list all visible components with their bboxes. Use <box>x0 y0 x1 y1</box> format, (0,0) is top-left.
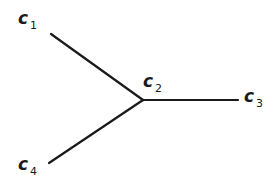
node-subscript: 3 <box>256 97 263 110</box>
node-label-c2: c2 <box>143 73 162 90</box>
edge-c4-c2 <box>49 100 143 163</box>
node-letter: c <box>143 71 153 91</box>
edge-c1-c2 <box>51 34 143 100</box>
node-letter: c <box>244 86 254 106</box>
node-subscript: 1 <box>30 19 37 32</box>
node-letter: c <box>18 8 28 28</box>
node-subscript: 4 <box>30 165 37 178</box>
branch-diagram <box>0 0 279 191</box>
node-label-c4: c4 <box>18 156 37 173</box>
node-label-c1: c1 <box>18 10 37 27</box>
node-letter: c <box>18 154 28 174</box>
node-subscript: 2 <box>155 82 162 95</box>
node-label-c3: c3 <box>244 88 263 105</box>
